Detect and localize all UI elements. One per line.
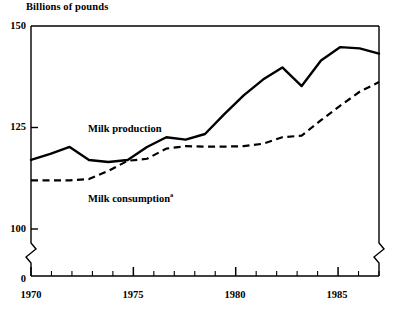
line-milk-consumption xyxy=(31,82,379,180)
plot-area xyxy=(0,0,395,313)
line-milk-production xyxy=(31,47,379,162)
axis-ticks xyxy=(31,128,379,277)
milk-production-consumption-chart: Billions of pounds 150 125 100 0 1970 19… xyxy=(0,0,395,313)
axis-lines xyxy=(26,26,384,276)
